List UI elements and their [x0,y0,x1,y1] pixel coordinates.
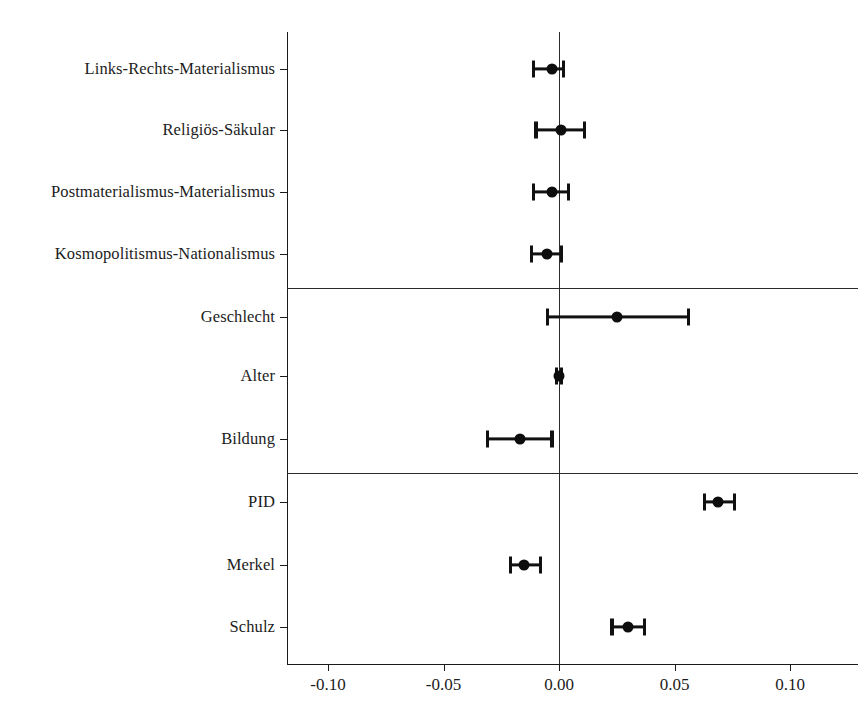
y-axis-label-5: Geschlecht [201,309,275,326]
confidence-interval-cap-high [733,494,736,511]
y-axis-label-8: PID [248,494,275,511]
confidence-interval-cap-low [534,122,537,139]
y-tick [280,627,287,628]
estimate-point [623,622,634,633]
estimate-point [556,125,567,136]
y-axis-label-7: Bildung [221,431,275,448]
estimate-value-text: 0.025 [0,317,1,318]
estimate-point [547,187,558,198]
y-tick [280,502,287,503]
x-tick-label-1: -0.10 [268,676,388,693]
confidence-interval-cap-high [562,61,565,78]
confidence-interval-cap-low [532,184,535,201]
estimate-point [713,497,724,508]
x-tick-label-5: 0.10 [730,676,850,693]
estimate-point [554,371,565,382]
y-tick [280,565,287,566]
estimate-value-text: -0.017 [0,439,1,440]
x-tick [559,664,560,671]
estimate-value-text: -0.003 [0,69,1,70]
y-axis-label-4: Kosmopolitismus-Nationalismus [55,246,275,263]
coefficient-plot-figure: Links-Rechts-MaterialismusReligiös-Säkul… [0,0,864,726]
confidence-interval-cap-high [567,184,570,201]
x-tick-label-4: 0.05 [615,676,735,693]
y-tick [280,376,287,377]
y-axis-label-3: Postmaterialismus-Materialismus [51,184,275,201]
estimate-value-text: -0.005 [0,254,1,255]
x-axis-spine [287,664,858,665]
confidence-interval-cap-low [703,494,706,511]
confidence-interval-cap-low [546,309,549,326]
x-tick [675,664,676,671]
confidence-interval-cap-low [530,246,533,263]
estimate-value-text: 0.069 [0,502,1,503]
estimate-value-text: 0 [0,376,1,377]
confidence-interval-cap-low [532,61,535,78]
x-tick-label-3: 0.00 [499,676,619,693]
y-axis-label-10: Schulz [229,619,275,636]
estimate-value-text: 0.03 [0,627,1,628]
y-tick [280,317,287,318]
y-axis-label-2: Religiös-Säkular [163,122,276,139]
confidence-interval-cap-low [509,557,512,574]
estimate-value-text: 0.001 [0,130,1,131]
x-tick [328,664,329,671]
panel-separator-1 [287,288,858,289]
estimate-point [519,560,530,571]
confidence-interval-cap-high [560,246,563,263]
confidence-interval-cap-low [610,619,613,636]
estimate-value-text: -0.003 [0,192,1,193]
estimate-point [611,312,622,323]
estimate-point [542,249,553,260]
x-tick-label-2: -0.05 [384,676,504,693]
y-axis-label-1: Links-Rechts-Materialismus [85,61,275,78]
confidence-interval-cap-high [687,309,690,326]
estimate-value-text: -0.015 [0,565,1,566]
confidence-interval-cap-high [550,431,553,448]
y-tick [280,192,287,193]
plot-area: Links-Rechts-MaterialismusReligiös-Säkul… [0,0,864,726]
x-tick [790,664,791,671]
estimate-point [514,434,525,445]
x-tick [444,664,445,671]
y-axis-label-9: Merkel [227,557,275,574]
y-tick [280,439,287,440]
estimate-point [547,64,558,75]
confidence-interval-cap-high [643,619,646,636]
confidence-interval-cap-low [486,431,489,448]
y-tick [280,69,287,70]
y-tick [280,254,287,255]
y-tick [280,130,287,131]
confidence-interval-cap-high [583,122,586,139]
y-axis-spine [287,32,288,664]
confidence-interval-cap-high [539,557,542,574]
y-axis-label-6: Alter [241,368,275,385]
panel-separator-2 [287,473,858,474]
